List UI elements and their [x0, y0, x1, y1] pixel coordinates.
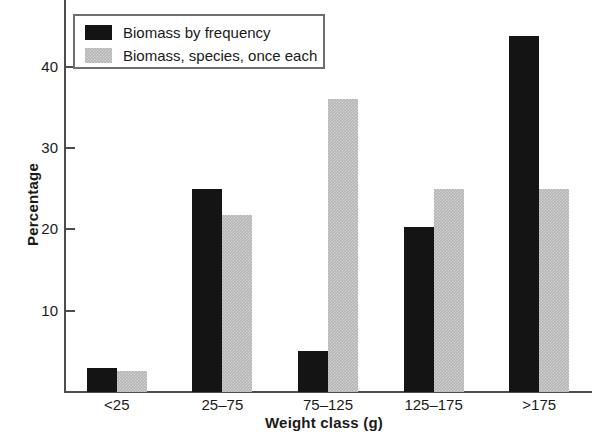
legend-swatch-dark-icon	[85, 25, 112, 40]
bar	[117, 371, 147, 392]
bar	[298, 351, 328, 392]
y-tick-label-text: 10	[24, 303, 58, 318]
x-axis-title: Weight class (g)	[64, 414, 584, 431]
y-tick-label-text: 40	[24, 59, 58, 74]
bar-chart-figure: Percentage 1020304050 <2525–7575–125125–…	[0, 0, 599, 440]
bar	[404, 227, 434, 392]
y-tick-label: 30	[20, 140, 58, 155]
legend-label: Biomass by frequency	[123, 25, 271, 40]
bar	[434, 189, 464, 392]
bar	[192, 189, 222, 392]
bar	[539, 189, 569, 392]
chart-legend: Biomass by frequency Biomass, species, o…	[73, 14, 325, 69]
bar	[328, 99, 358, 392]
legend-entry-biomass-species-once-each: Biomass, species, once each	[85, 44, 317, 66]
x-tick-label: 75–125	[303, 396, 353, 413]
y-axis-title: Percentage	[24, 135, 41, 275]
legend-entry-biomass-by-frequency: Biomass by frequency	[85, 21, 271, 43]
y-tick-label-text: 20	[24, 221, 58, 236]
legend-swatch-light-icon	[85, 48, 112, 63]
x-tick-label: >175	[522, 396, 556, 413]
x-tick-label: 125–175	[404, 396, 462, 413]
legend-label: Biomass, species, once each	[123, 48, 317, 63]
y-tick-label-text: 30	[24, 140, 58, 155]
x-tick-label: <25	[104, 396, 129, 413]
bar	[222, 215, 252, 392]
y-tick-label: 20	[20, 221, 58, 236]
x-tick-label: 25–75	[202, 396, 244, 413]
bar	[87, 368, 117, 392]
y-tick-label: 40	[20, 59, 58, 74]
bar	[509, 36, 539, 392]
y-tick-label: 10	[20, 303, 58, 318]
